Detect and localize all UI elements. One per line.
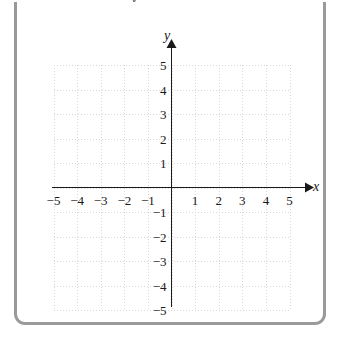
x-axis-label: x xyxy=(313,180,319,194)
figure-container: y y x −5−4−3−2−112345 5432 xyxy=(0,0,338,341)
y-tick-label-neg4: −4 xyxy=(141,280,167,293)
y-tick-label-2: 2 xyxy=(141,133,167,146)
y-axis xyxy=(167,39,177,307)
y-tick-label-neg5: −5 xyxy=(141,304,167,317)
x-tick-label-neg2: −2 xyxy=(113,194,135,207)
y-tick-label-3: 3 xyxy=(141,108,167,121)
y-tick-label-1: 1 xyxy=(141,157,167,170)
y-tick-label-neg1: −1 xyxy=(141,206,167,219)
x-tick-label-3: 3 xyxy=(231,194,253,207)
y-tick-label-5: 5 xyxy=(141,59,167,72)
x-tick-label-1: 1 xyxy=(184,194,206,207)
x-tick-label-neg3: −3 xyxy=(90,194,112,207)
y-tick-label-4: 4 xyxy=(141,84,167,97)
y-axis-label: y xyxy=(164,29,170,43)
coordinate-plane: y x −5−4−3−2−112345 54321−1−2−3−4−5 xyxy=(0,0,338,341)
y-tick-label-neg3: −3 xyxy=(141,255,167,268)
x-tick-label-5: 5 xyxy=(279,194,301,207)
x-tick-label-2: 2 xyxy=(208,194,230,207)
coordinate-plane-svg xyxy=(0,0,338,341)
x-tick-label-neg4: −4 xyxy=(66,194,88,207)
x-tick-label-4: 4 xyxy=(255,194,277,207)
x-tick-label-neg5: −5 xyxy=(43,194,65,207)
y-tick-label-neg2: −2 xyxy=(141,231,167,244)
x-axis xyxy=(52,183,314,193)
